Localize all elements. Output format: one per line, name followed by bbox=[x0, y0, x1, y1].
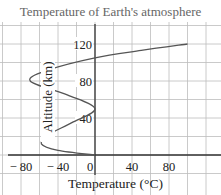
svg-text:120: 120 bbox=[73, 38, 92, 52]
chart-area: − 80− 40040804080120 bbox=[0, 0, 221, 195]
chart-title: Temperature of Earth's atmosphere bbox=[0, 4, 221, 20]
grid bbox=[0, 22, 221, 195]
svg-text:80: 80 bbox=[80, 75, 93, 89]
svg-text:40: 40 bbox=[126, 160, 139, 174]
svg-text:− 40: − 40 bbox=[47, 160, 70, 174]
x-axis-label: Temperature (°C) bbox=[0, 176, 221, 192]
svg-text:− 80: − 80 bbox=[10, 160, 33, 174]
y-axis-label: Altitude (km) bbox=[41, 52, 55, 142]
svg-text:0: 0 bbox=[87, 160, 93, 174]
svg-text:80: 80 bbox=[163, 160, 176, 174]
